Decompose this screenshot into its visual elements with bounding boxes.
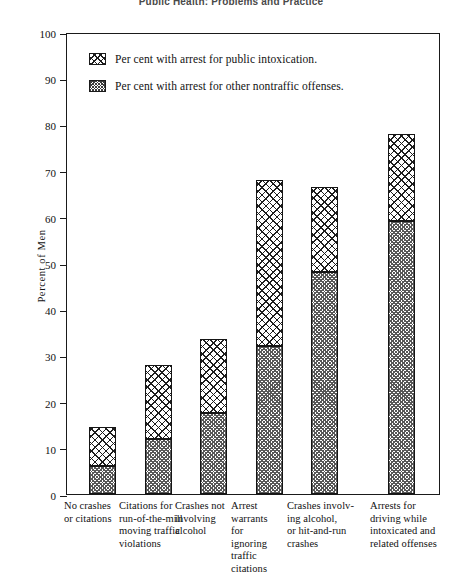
x-axis-label-line: No crashes (64, 500, 112, 513)
x-axis-label-line: for (231, 525, 268, 538)
y-tick-mark (60, 496, 67, 497)
y-tick-mark (60, 126, 67, 127)
y-tick-label: 70 (16, 165, 56, 181)
bar-segment-nontraffic (311, 272, 338, 494)
x-axis-label-line: Arrests for (370, 500, 437, 513)
bar-group (311, 32, 338, 494)
y-tick-label: 40 (16, 303, 56, 319)
x-axis-label-2: Citations forrun-of-the-millmoving traff… (119, 500, 183, 550)
bar-segment-intoxication (311, 187, 338, 272)
y-tick-label: 20 (16, 396, 56, 412)
y-tick-mark (60, 357, 67, 358)
x-axis-label-line: run-of-the-mill (119, 513, 183, 526)
bar-segment-intoxication (145, 365, 172, 439)
x-axis-labels: No crashesor citationsCitations forrun-o… (0, 500, 462, 577)
y-tick-label: 60 (16, 211, 56, 227)
bar-group (89, 32, 116, 494)
bar-segment-intoxication (89, 427, 116, 466)
y-tick-mark (60, 311, 67, 312)
y-tick-label: 50 (16, 257, 56, 273)
x-axis-label-line: ignoring (231, 538, 268, 551)
bar-segment-nontraffic (256, 346, 283, 494)
x-axis-label-line: or hit-and-run (287, 525, 354, 538)
x-axis-label-line: warrants (231, 513, 268, 526)
x-axis-label-5: Crashes involv-ing alcohol,or hit-and-ru… (287, 500, 354, 550)
y-tick-label: 30 (16, 349, 56, 365)
x-axis-label-line: alcohol (175, 525, 225, 538)
y-tick-label: 10 (16, 442, 56, 458)
bar-segment-intoxication (388, 134, 415, 222)
x-axis-label-line: ing alcohol, (287, 513, 354, 526)
x-axis-label-line: traffic (231, 550, 268, 563)
bar-segment-nontraffic (145, 439, 172, 494)
bar-segment-intoxication (200, 339, 227, 413)
legend-item-nontraffic: Per cent with arrest for other nontraffi… (89, 79, 419, 92)
bar-segment-nontraffic (89, 466, 116, 494)
plot-frame: Percent of Men 0102030405060708090100 Pe… (66, 33, 440, 495)
x-axis-label-6: Arrests fordriving whileintoxicated andr… (370, 500, 437, 550)
x-axis-label-line: citations (231, 563, 268, 576)
bar-group (145, 32, 172, 494)
x-axis-label-line: involving (175, 513, 225, 526)
y-tick-mark (60, 403, 67, 404)
x-axis-label-3: Crashes notinvolvingalcohol (175, 500, 225, 538)
bar-segment-intoxication (256, 180, 283, 346)
x-axis-label-line: crashes (287, 538, 354, 551)
x-axis-label-line: or citations (64, 513, 112, 526)
bar-group (256, 32, 283, 494)
bar-group (200, 32, 227, 494)
x-axis-label-1: No crashesor citations (64, 500, 112, 525)
stacked-bar-chart: Percent of Men 0102030405060708090100 Pe… (0, 0, 462, 577)
x-axis-label-line: moving traffic (119, 525, 183, 538)
x-axis-label-4: Arrestwarrantsforignoringtrafficcitation… (231, 500, 268, 576)
x-axis-label-line: driving while (370, 513, 437, 526)
x-axis-label-line: violations (119, 538, 183, 551)
y-tick-label: 90 (16, 72, 56, 88)
y-tick-mark (60, 34, 67, 35)
y-tick-mark (60, 172, 67, 173)
y-tick-mark (60, 218, 67, 219)
bar-segment-nontraffic (200, 413, 227, 494)
y-tick-label: 100 (16, 26, 56, 42)
bar-segment-nontraffic (388, 221, 415, 494)
x-axis-label-line: Citations for (119, 500, 183, 513)
y-tick-label: 80 (16, 118, 56, 134)
y-tick-mark (60, 265, 67, 266)
y-tick-mark (60, 80, 67, 81)
x-axis-label-line: intoxicated and (370, 525, 437, 538)
x-axis-label-line: Crashes not (175, 500, 225, 513)
y-tick-mark (60, 449, 67, 450)
x-axis-label-line: Arrest (231, 500, 268, 513)
bar-group (388, 32, 415, 494)
chart-legend: Per cent with arrest for public intoxica… (89, 52, 419, 106)
legend-item-intoxication: Per cent with arrest for public intoxica… (89, 52, 419, 65)
x-axis-label-line: related offenses (370, 538, 437, 551)
x-axis-label-line: Crashes involv- (287, 500, 354, 513)
